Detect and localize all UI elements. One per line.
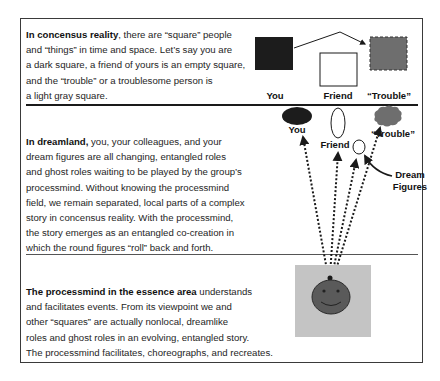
dreamland-figure: You Friend “Trouble” Dream Figures [282, 106, 427, 277]
essence-figure [295, 265, 371, 337]
label-friend: Friend [323, 90, 352, 101]
diagram-figures: You Friend “Trouble” You Friend “Trouble… [0, 0, 440, 381]
dream-figures-pointer-arrow [365, 156, 392, 176]
dream-figure-circle [353, 140, 365, 154]
arrow-to-you [303, 137, 328, 276]
friend-empty-ellipse [331, 108, 345, 138]
dream-figures-label-line1: Dream [395, 169, 425, 180]
trouble-gray-square [370, 37, 407, 70]
you-dark-square [255, 37, 293, 70]
dream-figures-label-line2: Figures [393, 181, 427, 192]
friend-empty-square [320, 53, 357, 86]
dream-label-friend: Friend [320, 139, 349, 150]
trouble-cloud [374, 106, 401, 127]
label-trouble: “Trouble” [367, 90, 411, 101]
label-you: You [266, 90, 283, 101]
arrow-to-friend [330, 153, 338, 276]
consensus-figure: You Friend “Trouble” [255, 32, 411, 101]
smiley-face-icon [312, 280, 350, 314]
connector-arrow [294, 32, 365, 48]
dream-label-you: You [288, 124, 305, 135]
dotted-arrows [303, 128, 380, 276]
you-dark-ellipse [282, 107, 312, 125]
